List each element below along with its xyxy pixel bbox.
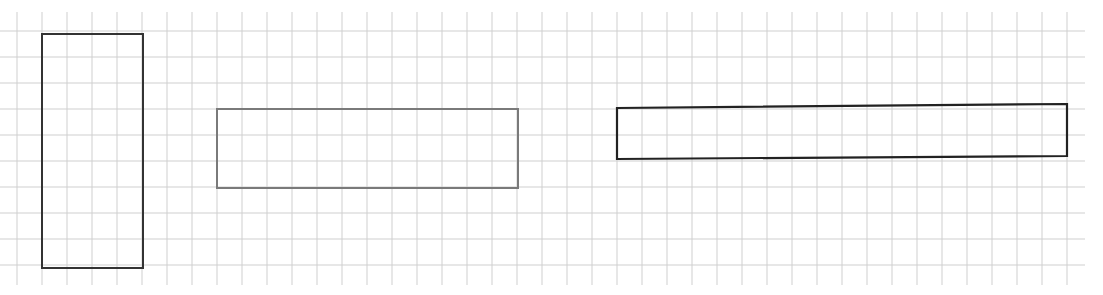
paper-background (0, 0, 1103, 295)
grid-paper-figure (0, 0, 1103, 295)
